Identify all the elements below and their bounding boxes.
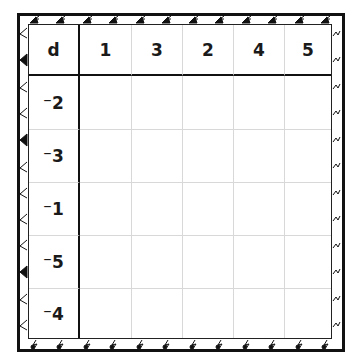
grid-cell[interactable] (132, 289, 183, 338)
grid-cell[interactable] (285, 183, 331, 236)
row-header: ⁻2 (29, 76, 80, 130)
row-header: ⁻1 (29, 183, 80, 236)
grid-cell[interactable] (183, 289, 234, 338)
grid-cell[interactable] (285, 130, 331, 183)
column-header: 3 (132, 25, 183, 76)
grid-cell[interactable] (80, 130, 132, 183)
grid-cell[interactable] (285, 76, 331, 130)
column-header: 4 (234, 25, 285, 76)
grid-cell[interactable] (234, 76, 285, 130)
grid-cell[interactable] (80, 289, 132, 338)
grid-cell[interactable] (234, 236, 285, 289)
grid-cell[interactable] (234, 130, 285, 183)
grid-cell[interactable] (183, 130, 234, 183)
row-header: ⁻4 (29, 289, 80, 338)
column-header: 2 (183, 25, 234, 76)
column-header: 1 (80, 25, 132, 76)
column-header: 5 (285, 25, 331, 76)
row-header: ⁻5 (29, 236, 80, 289)
grid-cell[interactable] (80, 76, 132, 130)
grid-cell[interactable] (234, 183, 285, 236)
grid-cell[interactable] (183, 183, 234, 236)
puzzle-board: d 1 3 2 4 5 ⁻2 ⁻3 ⁻1 ⁻5 ⁻4 (28, 24, 332, 339)
grid-cell[interactable] (132, 236, 183, 289)
grid-cell[interactable] (132, 76, 183, 130)
puzzle-grid: d 1 3 2 4 5 ⁻2 ⁻3 ⁻1 ⁻5 ⁻4 (29, 25, 331, 338)
row-header: ⁻3 (29, 130, 80, 183)
corner-label: d (29, 25, 80, 76)
grid-cell[interactable] (80, 183, 132, 236)
grid-cell[interactable] (132, 183, 183, 236)
grid-cell[interactable] (234, 289, 285, 338)
grid-cell[interactable] (80, 236, 132, 289)
grid-cell[interactable] (285, 236, 331, 289)
grid-cell[interactable] (183, 236, 234, 289)
grid-cell[interactable] (285, 289, 331, 338)
grid-cell[interactable] (183, 76, 234, 130)
grid-cell[interactable] (132, 130, 183, 183)
